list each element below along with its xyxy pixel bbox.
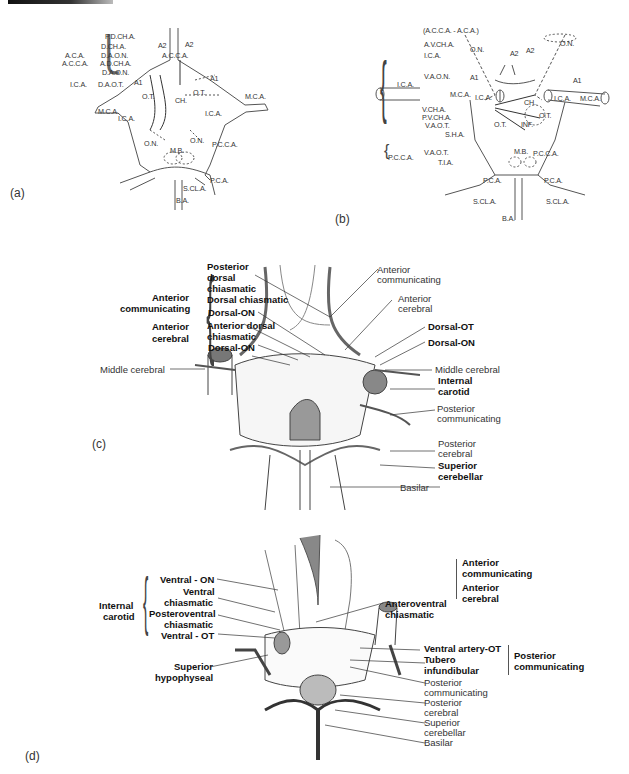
label-c-dorsal-chiasmatic: Dorsal chiasmatic [207,294,288,305]
label-d-ventral-artery-ot: Ventral artery-OT [424,643,501,654]
label-b-on-left: O.N. [470,45,484,54]
divider-d-top [456,559,457,599]
label-b-a2-right: A2 [526,46,534,55]
label-acca-aca: (A.C.C.A. - A.C.A.) [423,26,479,35]
label-d-rm-communicating: communicating [514,661,584,672]
label-b-a1-right: A1 [573,76,581,85]
label-b-a2-left: A2 [510,49,518,58]
label-c-chiasmatic-1: chiasmatic [207,283,256,294]
label-c-r-superior: Superior [438,460,477,471]
label-ba: B.A. [176,196,189,205]
label-d-rt-anterior-2: Anterior [462,582,499,593]
label-d-ventral-on: Ventral - ON [160,574,214,585]
label-vaon: V.A.O.N. [424,72,450,81]
label-a2-right: A2 [185,40,193,49]
panel-a: ⎩ A.C.A. A.C.C.A. I.C.A. P.D.CH.A. D.CH.… [0,0,300,240]
label-pcca: P.C.C.A. [212,140,237,149]
label-d-superior: Superior [174,661,213,672]
label-c-r-middle-cerebral: Middle cerebral [435,364,500,375]
label-c-posterior: Posterior [207,261,249,272]
label-b-ica-group: I.C.A. [397,80,414,89]
panel-d: { Internal carotid Ventral - ON Ventral … [0,530,629,774]
label-ch: CH. [175,96,187,105]
label-ica-right: I.C.A. [205,109,222,118]
label-d-rt-cerebral: cerebral [462,593,499,604]
label-daot: D.A.O.T. [98,80,124,89]
label-d-chiasmatic-3: chiasmatic [385,609,434,620]
label-d-infundibular: infundibular [424,665,479,676]
label-on-right: O.N. [190,136,204,145]
label-scla: S.CL.A. [183,184,206,193]
label-d-carotid: carotid [103,611,135,622]
label-d-ventral-ot: Ventral - OT [161,630,214,641]
label-b-pcca: P.C.C.A. [533,149,558,158]
label-on-left: O.N. [144,139,158,148]
panel-label-c: (c) [92,437,106,451]
label-b-mca-left: M.C.A. [450,90,471,99]
label-ot-right: O.T. [193,88,205,97]
label-d-hypophyseal: hypophyseal [155,672,213,683]
label-b-pca-left: P.C.A. [483,176,502,185]
label-c-cerebral: cerebral [152,333,189,344]
label-a1-right: A1 [210,74,218,83]
label-c-anterior-dorsal: Anterior dorsal [207,320,275,331]
label-c-dorsal: dorsal [207,272,236,283]
label-c-r-basilar: Basilar [400,482,429,493]
panel-label-a: (a) [10,186,25,200]
panel-a-diagram [0,0,300,240]
label-c-r-carotid: carotid [438,386,470,397]
panel-b: { { (A.C.C.A. - A.C.A.) I.C.A. A.V.CH.A.… [320,0,629,240]
label-mca-right: M.C.A. [245,92,266,101]
label-c-dorsal-on-2: Dorsal-ON [208,342,255,353]
label-b-a1-left: A1 [470,73,478,82]
label-a1-left: A1 [134,78,142,87]
label-c-anterior-1: Anterior [152,292,189,303]
label-b-ot-left: O.T. [494,120,506,129]
label-c-middle-cerebral-left: Middle cerebral [100,364,165,375]
label-c-r-dorsal-on: Dorsal-ON [428,337,475,348]
label-d-ventral: Ventral [183,586,215,597]
label-d-rt-communicating: communicating [462,568,532,579]
label-b-ica-left: I.C.A. [475,93,492,102]
label-daon-2: D.A.O.N. [102,68,129,77]
label-d-rm-posterior: Posterior [514,650,556,661]
label-mca-left: M.C.A. [98,107,119,116]
label-tia: T.I.A. [438,158,453,167]
label-avcha: A.V.CH.A. [424,40,454,49]
label-b-scla-right: S.CL.A. [546,197,569,206]
label-c-r-cerebral: cerebral [398,303,432,314]
label-c-dorsal-on-1: Dorsal-ON [208,307,255,318]
label-d-chiasmatic-1: chiasmatic [164,597,213,608]
label-acca-struct: A.C.C.A. [162,51,188,60]
label-acca: A.C.C.A. [62,59,88,68]
label-pdcha: P.D.CH.A. [105,32,135,41]
label-b-pca-right: P.C.A. [544,176,563,185]
panel-label-d: (d) [25,749,40,763]
label-ica: I.C.A. [70,80,87,89]
label-pca: P.C.A. [210,176,229,185]
label-adcha: A.D.CH.A. [100,59,131,68]
label-sha: S.H.A. [445,130,465,139]
panel-c-illustration [0,255,629,515]
label-c-chiasmatic-2: chiasmatic [207,331,256,342]
label-b-mb: M.B. [514,147,528,156]
label-c-r-cerebral-2: cerebral [438,448,472,459]
label-c-r-communicating-2: communicating [437,413,501,424]
label-d-posteroventral: Posteroventral [149,608,216,619]
label-dcha: D.CH.A. [101,42,126,51]
label-b-inf: INF. [521,120,533,129]
label-b-on-right: O.N. [560,39,574,48]
panel-label-b: (b) [335,212,350,226]
label-c-r-internal: Internal [438,375,472,386]
divider-d-mid [508,645,509,675]
label-mb: M.B. [170,146,184,155]
label-b-scla-left: S.CL.A. [473,197,496,206]
panel-c: { Anterior communicating Anterior cerebr… [0,255,629,515]
label-c-anterior-2: Anterior [152,321,189,332]
label-c-r-cerebellar: cerebellar [438,471,483,482]
label-d-tubero: Tubero [424,654,456,665]
label-d-internal: Internal [99,600,133,611]
label-b-mca-right: M.C.A. [580,94,601,103]
label-b-pcca-group: P.C.C.A. [388,153,413,162]
label-c-r-communicating-1: communicating [377,274,441,285]
